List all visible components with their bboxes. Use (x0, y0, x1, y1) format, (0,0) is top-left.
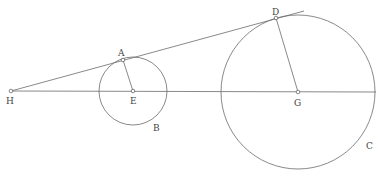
label-h: H (6, 96, 14, 106)
label-b: B (153, 123, 160, 133)
point-g (296, 90, 300, 94)
center-line (11, 91, 376, 92)
radius-ea (123, 60, 133, 91)
label-e: E (130, 96, 137, 106)
label-a: A (117, 48, 125, 58)
point-h (9, 89, 13, 93)
label-d: D (272, 7, 279, 17)
tangent-line (11, 11, 304, 91)
label-g: G (294, 98, 301, 108)
diagram-canvas: H A E D G B C (0, 0, 378, 178)
geometry-figure: H A E D G B C (0, 0, 378, 178)
radius-gd (276, 18, 298, 92)
label-c: C (366, 141, 373, 151)
point-e (131, 89, 135, 93)
point-a (121, 58, 125, 62)
